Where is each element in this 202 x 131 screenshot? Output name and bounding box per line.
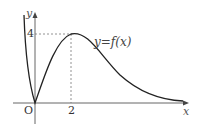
- origin-label: O: [24, 105, 33, 116]
- y-tick-4: 4: [27, 28, 34, 39]
- x-axis-label: x: [183, 106, 189, 117]
- function-curve: [24, 15, 183, 103]
- function-graph: y 4 O 2 x y=f(x): [0, 0, 202, 131]
- function-label: y=f(x): [94, 36, 131, 48]
- y-axis-arrow-icon: [33, 12, 38, 18]
- y-axis-label: y: [26, 8, 32, 19]
- x-tick-2: 2: [68, 105, 75, 116]
